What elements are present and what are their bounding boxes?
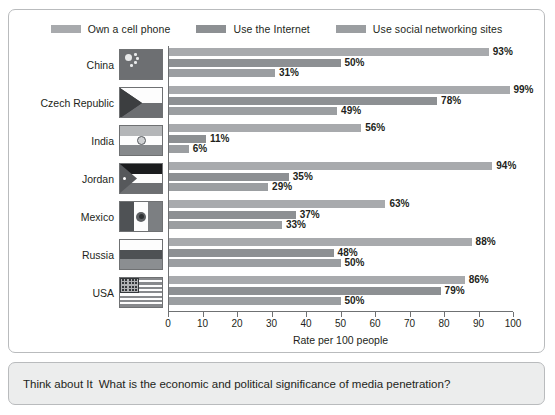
x-tick-label-60: 60	[369, 318, 380, 329]
bar-value-usa-use-social: 50%	[345, 296, 365, 306]
chart-plot-area: China 93% 50% 31%	[9, 46, 546, 346]
bar-value-china-use-social: 31%	[279, 68, 299, 78]
x-tick-mark-70	[410, 312, 411, 317]
bar-value-jordan-use-internet: 35%	[293, 172, 313, 182]
bar-value-russia-own-cell-phone: 88%	[476, 237, 496, 247]
bar-value-mexico-use-social: 33%	[286, 220, 306, 230]
legend-label-use-internet: Use the Internet	[233, 23, 309, 35]
category-label-mexico: Mexico	[14, 198, 114, 235]
bar-row-russia-use-internet: 48%	[168, 249, 546, 257]
bar-value-czech-republic-own-cell-phone: 99%	[514, 85, 534, 95]
bars-mexico: 63% 37% 33%	[168, 200, 546, 233]
bar-row-russia-use-social: 50%	[168, 259, 546, 267]
bar-value-china-own-cell-phone: 93%	[493, 47, 513, 57]
flag-china-icon	[119, 49, 163, 80]
bar-india-use-social	[168, 145, 189, 153]
chart-group-mexico: Mexico 63% 37% 33%	[9, 198, 546, 235]
bar-russia-own-cell-phone	[168, 238, 472, 246]
bar-value-mexico-use-internet: 37%	[300, 210, 320, 220]
chart-legend: Own a cell phone Use the Internet Use so…	[9, 23, 544, 35]
bar-row-china-own-cell-phone: 93%	[168, 48, 546, 56]
category-label-czech-republic: Czech Republic	[14, 84, 114, 121]
bar-row-czech-republic-use-internet: 78%	[168, 97, 546, 105]
think-about-it-banner: Think about It What is the economic and …	[8, 362, 545, 405]
legend-swatch-use-internet	[196, 25, 226, 33]
bar-row-usa-own-cell-phone: 86%	[168, 276, 546, 284]
flag-czech-republic-icon	[119, 87, 163, 118]
bar-row-jordan-use-internet: 35%	[168, 173, 546, 181]
x-tick-label-20: 20	[231, 318, 242, 329]
category-label-jordan: Jordan	[14, 160, 114, 197]
x-tick-label-100: 100	[505, 318, 522, 329]
bars-czech-republic: 99% 78% 49%	[168, 86, 546, 119]
bar-india-use-internet	[168, 135, 206, 143]
x-tick-mark-20	[237, 312, 238, 317]
x-tick-mark-0	[168, 312, 169, 317]
x-tick-mark-10	[203, 312, 204, 317]
category-label-china: China	[14, 46, 114, 83]
y-axis-line	[168, 46, 169, 312]
bar-mexico-use-social	[168, 221, 282, 229]
bar-jordan-use-internet	[168, 173, 289, 181]
bar-mexico-use-internet	[168, 211, 296, 219]
x-tick-label-50: 50	[335, 318, 346, 329]
bar-row-mexico-use-social: 33%	[168, 221, 546, 229]
legend-label-use-social: Use social networking sites	[373, 23, 502, 35]
legend-item-use-internet: Use the Internet	[196, 23, 309, 35]
bar-row-czech-republic-use-social: 49%	[168, 107, 546, 115]
legend-item-use-social: Use social networking sites	[336, 23, 502, 35]
bar-row-china-use-social: 31%	[168, 69, 546, 77]
bar-row-jordan-own-cell-phone: 94%	[168, 162, 546, 170]
flag-usa-icon	[119, 277, 163, 308]
legend-swatch-own-cell-phone	[51, 25, 81, 33]
bars-india: 56% 11% 6%	[168, 124, 546, 157]
chart-group-india: India 56% 11% 6%	[9, 122, 546, 159]
flag-mexico-icon	[119, 201, 163, 232]
bar-value-mexico-own-cell-phone: 63%	[389, 199, 409, 209]
bars-russia: 88% 48% 50%	[168, 238, 546, 271]
bar-row-china-use-internet: 50%	[168, 59, 546, 67]
bar-value-india-use-social: 6%	[193, 144, 207, 154]
x-tick-label-70: 70	[404, 318, 415, 329]
x-tick-mark-50	[341, 312, 342, 317]
category-label-india: India	[14, 122, 114, 159]
bar-russia-use-internet	[168, 249, 334, 257]
x-tick-mark-60	[375, 312, 376, 317]
bar-value-czech-republic-use-social: 49%	[341, 106, 361, 116]
x-tick-label-0: 0	[165, 318, 171, 329]
x-tick-mark-30	[272, 312, 273, 317]
bars-usa: 86% 79% 50%	[168, 276, 546, 309]
flag-russia-icon	[119, 239, 163, 270]
bars-jordan: 94% 35% 29%	[168, 162, 546, 195]
bar-china-own-cell-phone	[168, 48, 489, 56]
bar-value-czech-republic-use-internet: 78%	[441, 96, 461, 106]
bars-china: 93% 50% 31%	[168, 48, 546, 81]
bar-row-usa-use-internet: 79%	[168, 287, 546, 295]
x-tick-label-90: 90	[473, 318, 484, 329]
x-tick-label-10: 10	[197, 318, 208, 329]
chart-group-usa: USA 86% 79%	[9, 274, 546, 311]
bar-usa-own-cell-phone	[168, 276, 465, 284]
bar-row-russia-own-cell-phone: 88%	[168, 238, 546, 246]
chart-figure-frame: Own a cell phone Use the Internet Use so…	[8, 9, 545, 353]
think-about-it-question: What is the economic and political signi…	[99, 378, 451, 390]
x-tick-mark-80	[444, 312, 445, 317]
bar-value-india-use-internet: 11%	[210, 134, 229, 144]
bar-china-use-internet	[168, 59, 341, 67]
bar-value-russia-use-social: 50%	[345, 258, 365, 268]
bar-czech-republic-own-cell-phone	[168, 86, 510, 94]
think-about-it-label: Think about It	[23, 378, 93, 390]
bar-row-india-use-social: 6%	[168, 145, 546, 153]
category-label-russia: Russia	[14, 236, 114, 273]
x-tick-mark-40	[306, 312, 307, 317]
bar-usa-use-internet	[168, 287, 441, 295]
bar-usa-use-social	[168, 297, 341, 305]
bar-row-mexico-own-cell-phone: 63%	[168, 200, 546, 208]
bar-jordan-own-cell-phone	[168, 162, 492, 170]
x-tick-label-30: 30	[266, 318, 277, 329]
bar-row-czech-republic-own-cell-phone: 99%	[168, 86, 546, 94]
bar-china-use-social	[168, 69, 275, 77]
bar-value-china-use-internet: 50%	[345, 58, 365, 68]
x-axis-title: Rate per 100 people	[168, 334, 513, 346]
bar-value-usa-use-internet: 79%	[445, 286, 465, 296]
